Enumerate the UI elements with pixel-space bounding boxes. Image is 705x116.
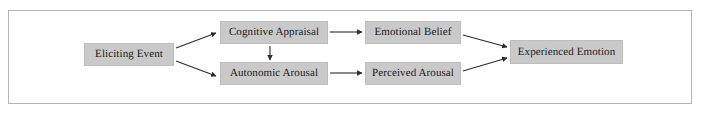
node-experienced-emotion-label: Experienced Emotion [516,47,618,58]
edge-belief-to-experienced [463,35,507,47]
node-emotional-belief[interactable]: Emotional Belief [365,21,461,44]
node-autonomic-arousal[interactable]: Autonomic Arousal [220,62,328,85]
node-emotional-belief-label: Emotional Belief [372,27,453,38]
node-experienced-emotion[interactable]: Experienced Emotion [510,40,623,64]
edge-perceived-to-experienced [463,58,507,71]
node-autonomic-arousal-label: Autonomic Arousal [228,68,320,79]
figure-root: Eliciting Event Cognitive Appraisal Auto… [0,0,705,116]
edge-eliciting-to-autonomic [176,61,216,76]
node-cognitive-appraisal-label: Cognitive Appraisal [227,27,321,38]
edge-eliciting-to-cognitive [176,33,216,48]
node-eliciting-event-label: Eliciting Event [93,49,165,60]
node-eliciting-event[interactable]: Eliciting Event [84,43,174,66]
node-perceived-arousal-label: Perceived Arousal [370,68,456,79]
node-perceived-arousal[interactable]: Perceived Arousal [365,62,461,85]
node-cognitive-appraisal[interactable]: Cognitive Appraisal [220,21,328,44]
